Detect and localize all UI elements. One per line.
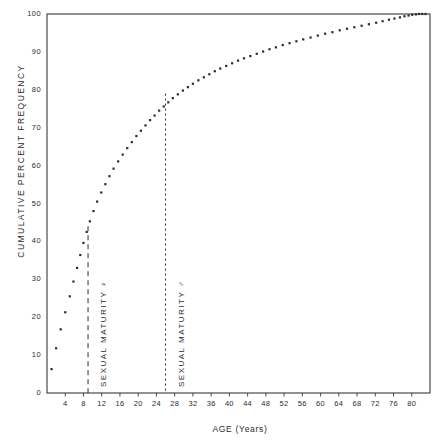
data-point bbox=[79, 254, 81, 256]
data-point bbox=[424, 13, 426, 15]
data-point bbox=[231, 62, 233, 64]
y-tick-label: 50 bbox=[14, 199, 41, 208]
x-tick-label: 80 bbox=[400, 399, 424, 408]
data-point bbox=[96, 201, 98, 203]
data-point bbox=[177, 93, 179, 95]
data-point bbox=[346, 28, 348, 30]
data-point bbox=[104, 183, 106, 185]
data-point bbox=[131, 141, 133, 143]
y-tick-label: 10 bbox=[14, 350, 41, 359]
data-point bbox=[275, 46, 277, 48]
y-tick-label: 70 bbox=[14, 123, 41, 132]
figure-container: CUMULATIVE PERCENT FREQUENCY AGE (Years)… bbox=[0, 0, 444, 441]
data-point bbox=[403, 15, 405, 17]
data-point bbox=[50, 368, 52, 370]
data-point bbox=[219, 67, 221, 69]
data-point bbox=[112, 168, 114, 170]
data-point bbox=[163, 105, 165, 107]
data-point bbox=[135, 135, 137, 137]
data-point bbox=[249, 55, 251, 57]
data-point bbox=[60, 328, 62, 330]
data-point bbox=[144, 124, 146, 126]
y-tick-label: 90 bbox=[14, 47, 41, 56]
data-point bbox=[100, 191, 102, 193]
data-point bbox=[92, 210, 94, 212]
data-point bbox=[55, 347, 57, 349]
data-point bbox=[86, 231, 88, 233]
data-point bbox=[309, 36, 311, 38]
data-point bbox=[375, 22, 377, 24]
data-point bbox=[82, 242, 84, 244]
data-point bbox=[126, 147, 128, 149]
data-point bbox=[187, 86, 189, 88]
data-point bbox=[282, 44, 284, 46]
data-point bbox=[192, 83, 194, 85]
data-point bbox=[353, 26, 355, 28]
data-point bbox=[140, 130, 142, 132]
data-point bbox=[64, 311, 66, 313]
data-point bbox=[399, 16, 401, 18]
annotation-label-sexual-maturity-female: SEXUAL MATURITY ♀ bbox=[99, 280, 108, 387]
data-point bbox=[108, 175, 110, 177]
y-tick-label: 100 bbox=[14, 9, 41, 18]
data-point bbox=[268, 48, 270, 50]
annotation-label-sexual-maturity-male: SEXUAL MATURITY ♂ bbox=[177, 280, 186, 387]
data-point bbox=[214, 70, 216, 72]
data-point bbox=[324, 33, 326, 35]
y-tick-label: 60 bbox=[14, 161, 41, 170]
x-axis-title: AGE (Years) bbox=[150, 424, 330, 434]
data-point bbox=[418, 13, 420, 15]
y-tick-label: 40 bbox=[14, 236, 41, 245]
data-point bbox=[158, 110, 160, 112]
data-point bbox=[388, 19, 390, 21]
data-point bbox=[122, 154, 124, 156]
data-point bbox=[69, 295, 71, 297]
data-point bbox=[72, 280, 74, 282]
data-point bbox=[411, 14, 413, 16]
y-tick-label: 20 bbox=[14, 312, 41, 321]
data-point bbox=[295, 40, 297, 42]
data-point bbox=[393, 17, 395, 19]
data-point bbox=[237, 60, 239, 62]
data-point bbox=[225, 65, 227, 67]
data-point bbox=[415, 13, 417, 15]
data-point bbox=[197, 79, 199, 81]
data-point bbox=[302, 38, 304, 40]
data-point bbox=[203, 76, 205, 78]
data-point bbox=[149, 119, 151, 121]
data-point bbox=[208, 73, 210, 75]
data-point bbox=[117, 160, 119, 162]
data-point bbox=[317, 35, 319, 37]
y-tick-label: 30 bbox=[14, 274, 41, 283]
y-tick-label: 80 bbox=[14, 85, 41, 94]
data-point bbox=[407, 14, 409, 16]
data-point bbox=[262, 50, 264, 52]
data-point bbox=[154, 114, 156, 116]
data-point bbox=[89, 220, 91, 222]
data-point bbox=[288, 42, 290, 44]
data-point bbox=[361, 25, 363, 27]
chart-plot-area bbox=[0, 0, 444, 441]
data-point bbox=[172, 97, 174, 99]
data-point bbox=[339, 29, 341, 31]
data-point bbox=[421, 13, 423, 15]
data-point bbox=[256, 53, 258, 55]
data-point bbox=[381, 20, 383, 22]
data-point bbox=[76, 267, 78, 269]
data-point bbox=[368, 23, 370, 25]
data-point bbox=[243, 57, 245, 59]
data-point bbox=[182, 89, 184, 91]
data-point bbox=[331, 31, 333, 33]
y-tick-label: 0 bbox=[14, 388, 41, 397]
data-point bbox=[167, 101, 169, 103]
